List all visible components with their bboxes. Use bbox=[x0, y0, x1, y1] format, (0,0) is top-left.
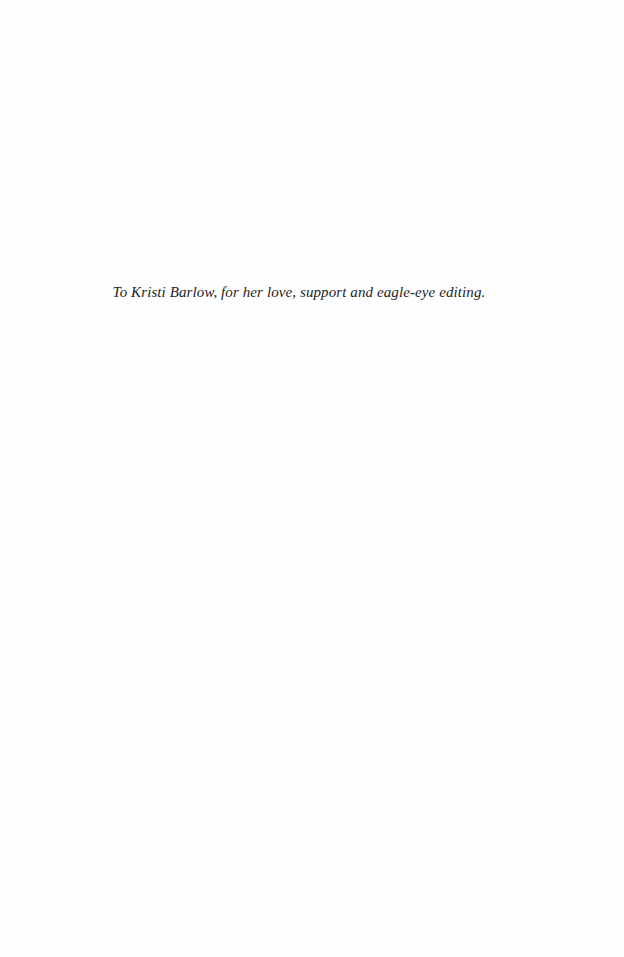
book-page: To Kristi Barlow, for her love, support … bbox=[0, 0, 624, 957]
dedication-text: To Kristi Barlow, for her love, support … bbox=[113, 284, 486, 301]
dedication-paragraph: To Kristi Barlow, for her love, support … bbox=[0, 284, 624, 301]
